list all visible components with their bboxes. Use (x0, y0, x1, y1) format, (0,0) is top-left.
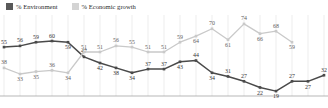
data-point-marker[interactable] (83, 51, 86, 54)
chart-plot-area: 5556596059474238343737434434312722192727… (0, 13, 328, 108)
data-point-marker[interactable] (243, 80, 246, 83)
data-point-label: 59 (289, 44, 295, 50)
data-point-label: 55 (1, 39, 7, 45)
data-point-marker[interactable] (227, 38, 230, 41)
data-point-label: 35 (33, 74, 39, 80)
data-point-label: 61 (225, 42, 231, 48)
data-point-marker[interactable] (211, 71, 214, 74)
data-point-label: 56 (113, 37, 119, 43)
data-point-label: 55 (129, 39, 135, 45)
data-point-label: 70 (209, 20, 215, 26)
data-point-label: 34 (209, 75, 215, 81)
data-point-label: 27 (241, 73, 247, 79)
data-point-label: 59 (33, 34, 39, 40)
data-point-marker[interactable] (307, 80, 310, 83)
data-point-label: 64 (193, 38, 199, 44)
data-point-marker[interactable] (211, 27, 214, 30)
data-point-marker[interactable] (3, 67, 6, 70)
data-point-marker[interactable] (291, 80, 294, 83)
data-point-marker[interactable] (131, 46, 134, 49)
data-point-label: 27 (289, 73, 295, 79)
data-point-marker[interactable] (115, 45, 118, 48)
data-point-marker[interactable] (195, 35, 198, 38)
data-point-marker[interactable] (275, 30, 278, 33)
data-point-label: 59 (65, 44, 71, 50)
data-point-label: 59 (177, 34, 183, 40)
line-chart-svg: 5556596059474238343737434434312722192727… (0, 13, 328, 108)
chart-root: % Environment % Economic growth 55565960… (0, 0, 328, 108)
data-point-label: 42 (97, 65, 103, 71)
legend-item-environment[interactable]: % Environment (6, 3, 58, 10)
data-point-label: 27 (305, 84, 311, 90)
data-point-label: 32 (321, 67, 327, 73)
data-point-marker[interactable] (179, 60, 182, 63)
data-point-marker[interactable] (291, 41, 294, 44)
data-point-label: 51 (81, 44, 87, 50)
data-point-label: 37 (145, 61, 151, 67)
data-point-marker[interactable] (131, 71, 134, 74)
data-point-label: 37 (161, 61, 167, 67)
data-point-marker[interactable] (99, 62, 102, 65)
data-point-label: 38 (113, 70, 119, 76)
data-point-marker[interactable] (51, 69, 54, 72)
data-point-marker[interactable] (163, 51, 166, 54)
legend-swatch-environment-icon (6, 3, 13, 10)
data-point-marker[interactable] (67, 71, 70, 74)
data-point-marker[interactable] (227, 75, 230, 78)
data-point-label: 38 (1, 59, 7, 65)
data-point-marker[interactable] (243, 23, 246, 26)
data-point-label: 44 (193, 52, 199, 58)
data-point-marker[interactable] (147, 51, 150, 54)
data-point-marker[interactable] (35, 41, 38, 44)
data-point-label: 51 (145, 44, 151, 50)
chart-legend: % Environment % Economic growth (6, 1, 150, 12)
data-point-marker[interactable] (19, 45, 22, 48)
data-point-label: 68 (273, 23, 279, 29)
data-point-marker[interactable] (3, 46, 6, 49)
data-point-label: 33 (17, 76, 23, 82)
data-point-label: 34 (129, 75, 135, 81)
data-point-marker[interactable] (147, 68, 150, 71)
data-point-label: 31 (225, 68, 231, 74)
data-point-label: 34 (65, 75, 71, 81)
data-point-marker[interactable] (99, 51, 102, 54)
data-point-label: 74 (241, 15, 247, 21)
data-point-marker[interactable] (115, 67, 118, 70)
data-point-marker[interactable] (83, 56, 86, 59)
data-point-marker[interactable] (323, 74, 326, 77)
legend-item-economic-growth[interactable]: % Economic growth (72, 3, 136, 10)
data-point-marker[interactable] (275, 90, 278, 93)
data-point-label: 66 (257, 36, 263, 42)
data-point-label: 43 (177, 64, 183, 70)
data-point-marker[interactable] (179, 41, 182, 44)
data-point-marker[interactable] (163, 68, 166, 71)
data-point-label: 19 (273, 93, 279, 99)
data-point-marker[interactable] (67, 41, 70, 44)
legend-swatch-economic-growth-icon (72, 3, 79, 10)
data-point-marker[interactable] (259, 32, 262, 35)
data-point-label: 36 (49, 62, 55, 68)
data-point-label: 56 (17, 37, 23, 43)
data-point-marker[interactable] (35, 70, 38, 73)
legend-label-economic-growth: % Economic growth (82, 3, 136, 10)
data-point-label: 60 (49, 33, 55, 39)
data-point-marker[interactable] (19, 73, 22, 76)
data-point-marker[interactable] (195, 59, 198, 62)
data-point-marker[interactable] (259, 86, 262, 89)
data-point-label: 51 (161, 44, 167, 50)
data-point-label: 22 (257, 90, 263, 96)
data-point-marker[interactable] (51, 40, 54, 43)
legend-label-environment: % Environment (16, 3, 58, 10)
data-point-label: 51 (97, 44, 103, 50)
